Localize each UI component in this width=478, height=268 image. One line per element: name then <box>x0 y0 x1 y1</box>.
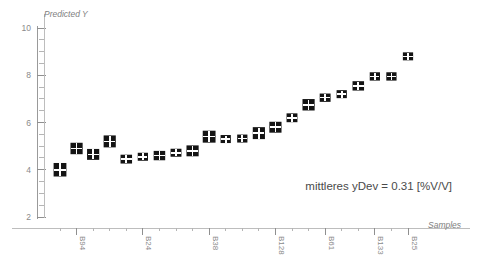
x-axis-title: Samples <box>428 220 462 230</box>
data-point-marker <box>154 151 166 160</box>
data-point-marker <box>370 72 380 80</box>
data-point-marker <box>403 52 413 60</box>
data-point-marker <box>104 135 116 147</box>
data-point-marker <box>287 113 298 122</box>
y-tick-label: 4 <box>26 165 31 175</box>
x-tick-label: B38 <box>211 236 220 251</box>
x-tick-label: B24 <box>144 236 153 251</box>
data-point-marker <box>87 149 99 160</box>
y-axis-title: Predicted Y <box>44 9 89 19</box>
data-point-marker <box>221 135 231 143</box>
data-point-marker <box>237 135 247 143</box>
data-point-marker <box>302 99 314 110</box>
data-point-marker <box>121 155 133 164</box>
x-axis: B94B24B38B128B61B133B25 <box>12 228 470 255</box>
data-point-marker <box>70 143 82 154</box>
x-tick-label: B128 <box>277 236 286 255</box>
data-point-marker <box>320 94 331 102</box>
x-tick-label: B61 <box>327 236 336 251</box>
data-point-marker <box>337 90 347 98</box>
x-tick-label: B25 <box>410 236 419 251</box>
y-tick-label: 2 <box>26 212 31 222</box>
x-tick-label: B94 <box>78 236 87 251</box>
predicted-y-scatter-chart: 246810 B94B24B38B128B61B133B25 Predicted… <box>0 0 478 268</box>
mean-ydev-annotation: mittleres yDev = 0.31 [%V/V] <box>305 180 452 192</box>
data-point-marker <box>138 153 148 161</box>
y-tick-label: 8 <box>26 70 31 80</box>
y-axis: 246810 <box>22 14 46 222</box>
data-markers <box>54 52 414 176</box>
data-point-marker <box>203 131 216 143</box>
data-point-marker <box>171 149 182 157</box>
x-tick-label: B133 <box>376 236 385 255</box>
data-point-marker <box>186 145 198 156</box>
data-point-marker <box>269 122 281 133</box>
data-point-marker <box>353 81 365 90</box>
data-point-marker <box>253 127 265 139</box>
y-tick-label: 6 <box>26 118 31 128</box>
data-point-marker <box>54 163 67 177</box>
data-point-marker <box>386 72 396 80</box>
chart-container: 246810 B94B24B38B128B61B133B25 Predicted… <box>0 0 478 268</box>
y-tick-label: 10 <box>22 23 32 33</box>
